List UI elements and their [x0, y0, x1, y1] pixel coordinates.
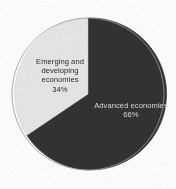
pie-chart: Emerging and developing economies 34% Ad… — [0, 0, 176, 189]
pie-chart-graphic — [0, 0, 176, 189]
